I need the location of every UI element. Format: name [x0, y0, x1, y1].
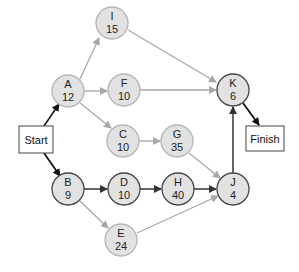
node-h: H 40 — [162, 173, 194, 205]
node-a: A 12 — [52, 75, 84, 107]
node-d-id: D — [120, 176, 128, 188]
node-b-id: B — [64, 176, 71, 188]
edge-k-finish — [243, 103, 259, 125]
node-i-id: I — [110, 10, 113, 22]
node-k-duration: 6 — [230, 90, 236, 102]
node-g-duration: 35 — [171, 141, 183, 153]
node-g-id: G — [173, 128, 182, 140]
edge-start-b — [44, 153, 60, 176]
edge-b-e — [80, 201, 108, 228]
node-j-duration: 4 — [230, 189, 236, 201]
edge-start-a — [44, 104, 59, 126]
node-c: C 10 — [107, 125, 139, 157]
node-k-id: K — [229, 77, 237, 89]
node-g: G 35 — [161, 125, 193, 157]
node-a-duration: 12 — [62, 91, 74, 103]
edge-i-k — [128, 30, 216, 82]
node-j: J 4 — [217, 173, 249, 205]
node-d-duration: 10 — [118, 189, 130, 201]
node-d: D 10 — [108, 173, 140, 205]
node-i: I 15 — [96, 7, 128, 39]
node-i-duration: 15 — [106, 23, 118, 35]
edge-g-j — [189, 153, 220, 178]
node-f: F 10 — [108, 74, 140, 106]
node-j-id: J — [230, 176, 236, 188]
node-c-duration: 10 — [117, 141, 129, 153]
node-b: B 9 — [52, 173, 84, 205]
edge-a-c — [80, 103, 111, 128]
node-a-id: A — [64, 78, 72, 90]
node-e-id: E — [117, 227, 124, 239]
edge-a-i — [80, 38, 99, 79]
node-h-duration: 40 — [172, 189, 184, 201]
start-box: Start — [19, 126, 53, 153]
node-k: K 6 — [217, 74, 249, 106]
node-f-id: F — [121, 77, 128, 89]
finish-label: Finish — [250, 133, 279, 145]
node-b-duration: 9 — [65, 189, 71, 201]
node-e-duration: 24 — [115, 240, 127, 252]
node-c-id: C — [119, 128, 127, 140]
node-h-id: H — [174, 176, 182, 188]
finish-box: Finish — [246, 126, 284, 151]
start-label: Start — [24, 134, 47, 146]
activity-network-diagram: Start Finish I 15 A 12 F 10 C 10 G 35 K … — [0, 0, 299, 272]
node-e: E 24 — [105, 224, 137, 256]
node-f-duration: 10 — [118, 90, 130, 102]
